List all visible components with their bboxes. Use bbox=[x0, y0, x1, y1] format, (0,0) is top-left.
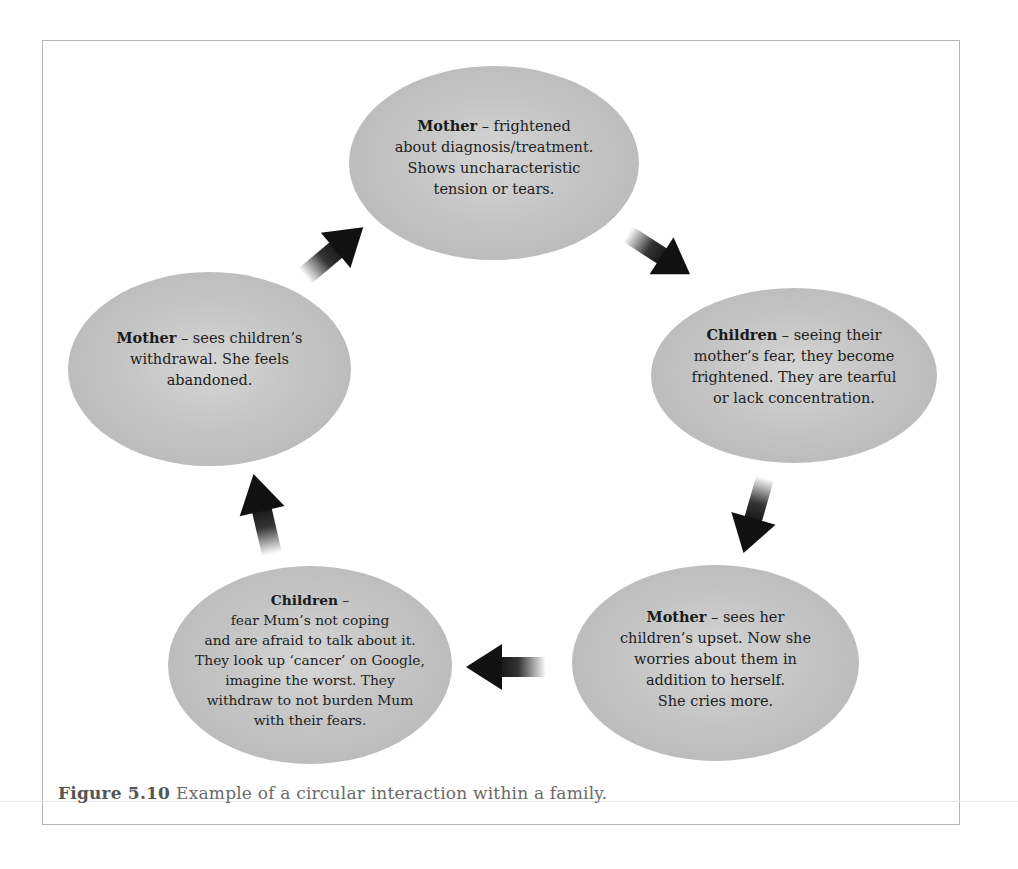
arrow-up-icon bbox=[231, 469, 294, 559]
node-subject: Mother bbox=[647, 608, 707, 625]
node-mother-frightened: Mother – frightened about diagnosis/trea… bbox=[349, 66, 639, 260]
node-subject: Children bbox=[707, 326, 778, 343]
arrow-left-icon bbox=[466, 644, 546, 690]
arrow-down-left-icon bbox=[721, 472, 787, 560]
node-subject: Children bbox=[271, 592, 338, 608]
node-children-frightened: Children – seeing their mother’s fear, t… bbox=[651, 288, 937, 463]
figure-caption-text: Example of a circular interaction within… bbox=[176, 783, 607, 803]
arrow-up-right-icon bbox=[290, 210, 378, 294]
node-children-withdraw: Children – fear Mum’s not coping and are… bbox=[168, 566, 452, 764]
figure-caption: Figure 5.10Example of a circular interac… bbox=[58, 783, 607, 803]
node-subject: Mother bbox=[117, 329, 177, 346]
arrow-down-right-icon bbox=[616, 216, 702, 293]
node-mother-abandoned: Mother – sees children’s withdrawal. She… bbox=[68, 272, 351, 466]
node-subject: Mother bbox=[417, 117, 477, 134]
node-mother-worries: Mother – sees her children’s upset. Now … bbox=[572, 565, 859, 761]
figure-caption-label: Figure 5.10 bbox=[58, 783, 170, 803]
